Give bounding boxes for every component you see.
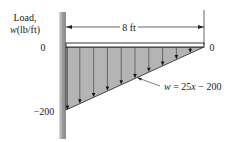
wall-axis xyxy=(59,12,66,139)
y-axis-label-line1: Load, xyxy=(13,12,36,23)
equation-leader-arrow xyxy=(137,78,142,81)
equation-eq: = 25 xyxy=(171,81,192,92)
equation-label: w = 25x − 200 xyxy=(164,81,221,92)
y-axis-label-line2: w(lb/ft) xyxy=(10,24,40,36)
dimension-arrow-right xyxy=(198,25,204,29)
right-zero-label: 0 xyxy=(210,42,215,53)
equation-rest: − 200 xyxy=(196,81,222,92)
left-zero-label: 0 xyxy=(41,42,46,53)
equation-leader-line xyxy=(138,78,160,86)
beam xyxy=(66,43,204,47)
dimension-arrow-left xyxy=(66,25,72,29)
min-load-label: −200 xyxy=(34,106,55,117)
y-axis-unit: (lb/ft) xyxy=(17,24,40,36)
dimension-label: 8 ft xyxy=(122,22,136,33)
distributed-load-diagram: 8 ft Load, w(lb/ft) 0 0 −200 w = 25x − 2… xyxy=(0,0,238,142)
